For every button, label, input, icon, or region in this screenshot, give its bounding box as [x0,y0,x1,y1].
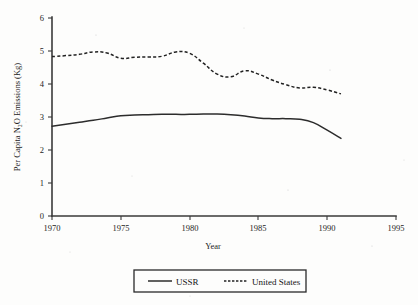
x-tick-label: 1985 [250,223,267,233]
chart-legend: USSR United States [134,270,306,292]
chart-figure: 6 5 4 3 2 1 0 Per Capita N₂O Emissions (… [0,0,418,305]
legend-label-united-states: United States [252,277,301,287]
y-tick-label: 3 [40,112,44,122]
series-line-united-states [52,51,341,93]
y-tick-label: 4 [40,79,45,89]
x-axis-tick-labels: 1970 1975 1980 1985 1990 1995 [44,223,405,233]
y-tick-label: 1 [40,178,44,188]
y-axis-tick-labels: 6 5 4 3 2 1 0 [40,13,45,221]
legend-label-ussr: USSR [176,277,199,287]
x-tick-label: 1970 [44,223,61,233]
series-line-ussr [52,114,341,139]
x-axis-title: Year [205,241,221,251]
x-tick-label: 1980 [182,223,199,233]
y-tick-label: 6 [40,13,44,23]
y-tick-label: 0 [40,211,44,221]
y-tick-label: 5 [40,46,44,56]
x-tick-label: 1975 [113,223,130,233]
x-tick-label: 1990 [319,223,336,233]
y-axis-title: Per Capita N₂O Emissions (Kg) [12,63,22,171]
x-tick-label: 1995 [388,223,405,233]
y-tick-label: 2 [40,145,44,155]
scan-speckles [26,28,405,297]
